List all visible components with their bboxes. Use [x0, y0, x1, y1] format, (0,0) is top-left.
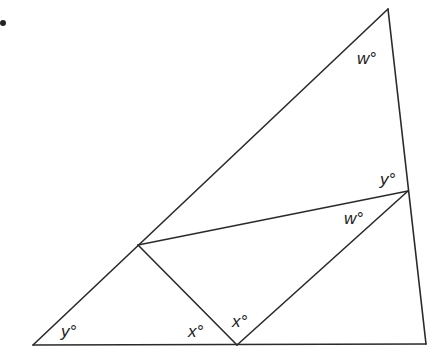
- angle-label-x-right: x°: [231, 312, 248, 331]
- angle-label-x-left: x°: [187, 322, 204, 341]
- geometry-diagram: w° y° w° y° x° x°: [0, 0, 438, 357]
- bullet-marker: [0, 20, 6, 26]
- segment-transversal: [138, 191, 408, 245]
- angle-label-w-top: w°: [357, 49, 376, 68]
- segment-outer-left: [33, 9, 388, 345]
- angle-label-w-mid: w°: [344, 209, 363, 228]
- angle-label-y-right: y°: [379, 170, 396, 189]
- angle-label-y-left: y°: [60, 322, 77, 341]
- segment-inner-right: [237, 191, 408, 345]
- segment-base: [33, 344, 426, 345]
